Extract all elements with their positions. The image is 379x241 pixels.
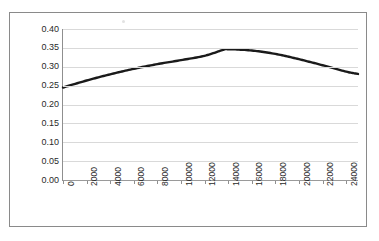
y-axis-tick-labels: 0.400.350.300.250.200.150.100.050.00 [26,29,59,180]
x-tick-label: 0 [67,181,76,186]
y-tick-label: 0.05 [29,157,59,166]
x-tick-mark [157,181,158,184]
x-tick-mark [205,181,206,184]
y-tick-label: 0.10 [29,138,59,147]
gridline-y [63,67,358,68]
x-tick-label: 16000 [255,162,264,186]
x-tick-label: 20000 [303,162,312,186]
x-tick-label: 24000 [350,162,359,186]
x-tick-mark [346,181,347,184]
gridline-y [63,123,358,124]
plot-area [63,29,358,180]
x-tick-label: 14000 [232,162,241,186]
x-tick-mark [110,181,111,184]
y-tick-label: 0.40 [29,25,59,34]
x-tick-mark [275,181,276,184]
x-tick-label: 8000 [161,167,170,186]
x-tick-label: 18000 [279,162,288,186]
x-tick-label: 12000 [208,162,217,186]
gridline-y [63,48,358,49]
y-tick-label: 0.00 [29,176,59,185]
x-tick-label: 22000 [326,162,335,186]
y-tick-label: 0.35 [29,43,59,52]
x-tick-label: 10000 [185,162,194,186]
x-tick-mark [63,181,64,184]
y-tick-label: 0.15 [29,119,59,128]
x-tick-mark [134,181,135,184]
y-tick-label: 0.30 [29,62,59,71]
x-tick-mark [87,181,88,184]
x-tick-label: 6000 [137,167,146,186]
gridline-y [63,29,358,30]
x-axis-tick-labels: 0200040006000800010000120001400016000180… [63,181,358,227]
y-tick-label: 0.25 [29,81,59,90]
figure: Predicted Probability 0.400.350.300.250.… [0,0,379,241]
x-tick-mark [228,181,229,184]
gridline-y [63,142,358,143]
x-tick-mark [181,181,182,184]
y-tick-label: 0.20 [29,100,59,109]
x-tick-label: 2000 [90,167,99,186]
x-tick-label: 4000 [114,167,123,186]
image-speck-artifact [122,20,125,23]
x-tick-mark [323,181,324,184]
gridline-y [63,86,358,87]
gridline-y [63,105,358,106]
x-tick-mark [299,181,300,184]
x-tick-mark [252,181,253,184]
